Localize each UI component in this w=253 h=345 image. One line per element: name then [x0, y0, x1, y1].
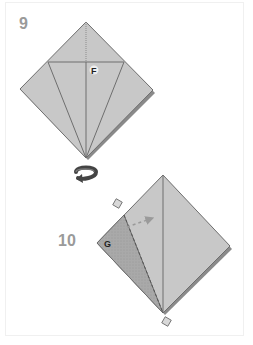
fold-marker-top [113, 199, 123, 209]
label-g: G [104, 239, 111, 249]
step-9-diagram: F [20, 22, 155, 160]
turn-over-icon [76, 168, 96, 184]
label-f: F [91, 66, 97, 76]
fold-marker-bottom [162, 317, 172, 327]
step-10-diagram: G [97, 175, 232, 326]
origami-diagram: F G [0, 0, 253, 345]
